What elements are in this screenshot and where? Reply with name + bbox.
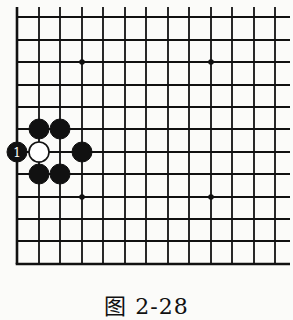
figure-caption: 图 2-28 (0, 288, 293, 320)
go-board: 1 (0, 0, 293, 280)
move-number: 1 (13, 146, 21, 160)
black-stone (50, 164, 70, 184)
black-stone: 1 (7, 142, 27, 162)
star-point-icon (208, 59, 214, 65)
black-stone (29, 164, 49, 184)
star-point-icon (208, 194, 214, 200)
star-point-icon (79, 194, 85, 200)
black-stone (29, 119, 49, 139)
black-stone (50, 119, 70, 139)
black-stone (72, 142, 92, 162)
white-stone (29, 142, 49, 162)
star-point-icon (79, 59, 85, 65)
